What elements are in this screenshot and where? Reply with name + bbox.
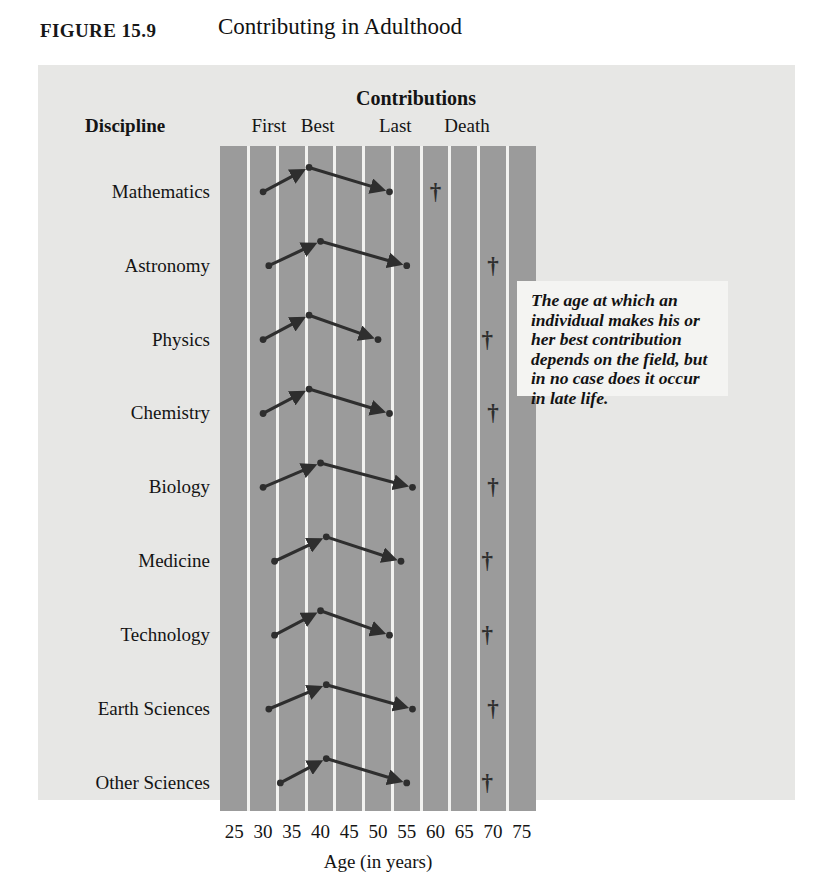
dagger-icon-earth-sciences: † xyxy=(487,696,499,721)
tick-label-55: 55 xyxy=(397,821,416,843)
tick-label-65: 65 xyxy=(455,821,474,843)
dot-first-mathematics xyxy=(260,188,267,195)
dagger-icon-physics: † xyxy=(481,327,493,352)
tick-label-30: 30 xyxy=(254,821,273,843)
dot-best-astronomy xyxy=(317,238,324,245)
dot-best-other-sciences xyxy=(323,755,330,762)
row-label-technology: Technology xyxy=(121,624,210,646)
dot-last-medicine xyxy=(398,558,405,565)
dot-best-medicine xyxy=(323,533,330,540)
figure-number: FIGURE 15.9 xyxy=(40,20,156,42)
column-header-last: Last xyxy=(379,115,412,137)
arrow-best-to-last-chemistry xyxy=(309,389,382,411)
dagger-icon-astronomy: † xyxy=(487,253,499,278)
row-label-mathematics: Mathematics xyxy=(112,181,210,203)
arrow-best-to-last-technology xyxy=(321,611,383,633)
dagger-icon-mathematics: † xyxy=(430,179,442,204)
row-label-earth-sciences: Earth Sciences xyxy=(98,698,210,720)
tick-label-40: 40 xyxy=(311,821,330,843)
tick-label-75: 75 xyxy=(512,821,531,843)
row-label-astronomy: Astronomy xyxy=(125,255,211,277)
arrow-best-to-last-medicine xyxy=(326,537,394,559)
arrow-best-to-last-mathematics xyxy=(309,167,382,189)
dot-best-physics xyxy=(306,312,313,319)
dagger-icon-medicine: † xyxy=(481,548,493,573)
dagger-icon-biology: † xyxy=(487,474,499,499)
dot-last-physics xyxy=(375,336,382,343)
contributions-group-header: Contributions xyxy=(258,87,574,110)
arrow-best-to-last-other-sciences xyxy=(326,759,399,781)
row-label-biology: Biology xyxy=(149,476,210,498)
arrow-best-to-last-earth-sciences xyxy=(326,685,405,707)
dagger-icon-chemistry: † xyxy=(487,400,499,425)
dot-last-other-sciences xyxy=(403,780,410,787)
dot-best-earth-sciences xyxy=(323,681,330,688)
dot-first-other-sciences xyxy=(277,780,284,787)
tick-label-50: 50 xyxy=(369,821,388,843)
dot-first-medicine xyxy=(271,558,278,565)
figure-title: Contributing in Adulthood xyxy=(218,14,462,40)
arrow-first-to-best-technology xyxy=(275,614,314,635)
row-label-other-sciences: Other Sciences xyxy=(96,772,210,794)
row-label-chemistry: Chemistry xyxy=(131,402,210,424)
dagger-icon-other-sciences: † xyxy=(481,770,493,795)
dot-last-technology xyxy=(386,632,393,639)
dagger-icon-technology: † xyxy=(481,622,493,647)
tick-label-70: 70 xyxy=(483,821,502,843)
dot-best-mathematics xyxy=(306,164,313,171)
dot-last-earth-sciences xyxy=(409,706,416,713)
figure-panel: Contributions Discipline FirstBestLastDe… xyxy=(38,65,795,800)
arrow-first-to-best-medicine xyxy=(275,540,320,561)
axis-title: Age (in years) xyxy=(220,851,536,872)
arrow-first-to-best-astronomy xyxy=(269,245,314,266)
figure-header: FIGURE 15.9 Contributing in Adulthood xyxy=(0,0,831,65)
dot-last-astronomy xyxy=(403,262,410,269)
chart-marks: ††††††††† xyxy=(220,146,536,811)
arrow-first-to-best-biology xyxy=(263,466,314,487)
arrow-first-to-best-physics xyxy=(263,319,302,340)
dot-first-chemistry xyxy=(260,410,267,417)
column-header-first: First xyxy=(251,115,286,137)
arrow-best-to-last-astronomy xyxy=(321,241,400,263)
row-labels: MathematicsAstronomyPhysicsChemistryBiol… xyxy=(58,146,210,811)
tick-label-45: 45 xyxy=(340,821,359,843)
arrow-first-to-best-other-sciences xyxy=(280,762,319,783)
arrow-best-to-last-physics xyxy=(309,315,371,337)
arrow-first-to-best-earth-sciences xyxy=(269,688,320,709)
arrow-best-to-last-biology xyxy=(321,463,406,485)
tick-label-25: 25 xyxy=(225,821,244,843)
dot-first-earth-sciences xyxy=(265,706,272,713)
dot-best-chemistry xyxy=(306,386,313,393)
dot-first-physics xyxy=(260,336,267,343)
arrow-first-to-best-chemistry xyxy=(263,393,302,414)
callout-text: The age at which an individual makes his… xyxy=(531,291,716,408)
dot-first-biology xyxy=(260,484,267,491)
dot-last-mathematics xyxy=(386,188,393,195)
tick-label-35: 35 xyxy=(282,821,301,843)
dot-first-astronomy xyxy=(265,262,272,269)
dot-last-biology xyxy=(409,484,416,491)
discipline-column-header: Discipline xyxy=(85,115,165,137)
column-header-best: Best xyxy=(301,115,335,137)
row-label-physics: Physics xyxy=(152,329,210,351)
callout-box: The age at which an individual makes his… xyxy=(517,281,728,396)
dot-best-biology xyxy=(317,460,324,467)
dot-last-chemistry xyxy=(386,410,393,417)
arrow-first-to-best-mathematics xyxy=(263,171,302,192)
tick-label-60: 60 xyxy=(426,821,445,843)
dot-first-technology xyxy=(271,632,278,639)
dot-best-technology xyxy=(317,607,324,614)
column-header-death: Death xyxy=(444,115,489,137)
row-label-medicine: Medicine xyxy=(138,550,210,572)
